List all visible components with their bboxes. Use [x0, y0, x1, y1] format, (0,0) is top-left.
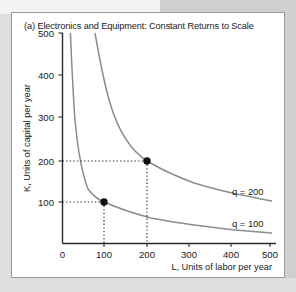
- point-marker-q100: [100, 198, 107, 205]
- guide-lines-q100: [63, 202, 105, 244]
- y-tick-label-200: 200: [38, 156, 54, 167]
- x-axis-title: L, Units of labor per year: [171, 262, 272, 272]
- x-tick-label-300: 300: [181, 249, 197, 260]
- curve-label-q200: q = 200: [232, 186, 264, 197]
- curve-label-q100: q = 100: [232, 218, 264, 229]
- isoquant-q200: [95, 33, 272, 201]
- isoquant-q200-path: [95, 33, 272, 201]
- y-tick-label-500: 500: [38, 28, 54, 39]
- y-axis-title: K, Units of capital per year: [22, 84, 32, 192]
- y-tick-label-100: 100: [38, 197, 54, 208]
- x-tick-label-200: 200: [139, 249, 155, 260]
- chart-canvas: 500 400 300 200 100 0 100 200 300 400 50…: [0, 0, 296, 292]
- point-marker-q200: [143, 157, 150, 164]
- x-tick-label-0: 0: [60, 249, 65, 260]
- x-tick-label-500: 500: [262, 249, 278, 260]
- x-tick-label-100: 100: [96, 249, 112, 260]
- figure-root: (a) Electronics and Equipment: Constant …: [0, 0, 296, 292]
- y-tick-label-400: 400: [38, 70, 54, 81]
- x-tick-label-400: 400: [223, 249, 239, 260]
- y-tick-label-300: 300: [38, 112, 54, 123]
